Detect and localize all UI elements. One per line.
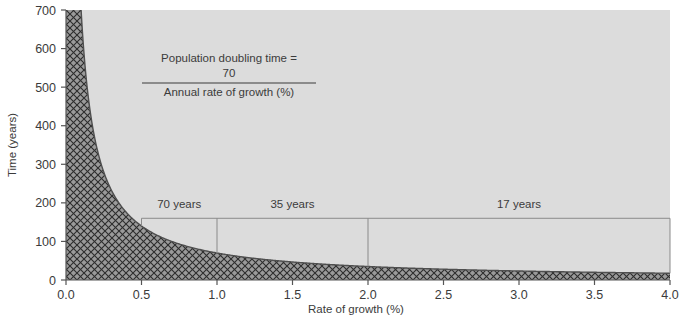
formula-denominator: Annual rate of growth (%) — [164, 86, 295, 98]
x-axis-title: Rate of growth (%) — [308, 303, 404, 315]
population-doubling-time-chart: 70 years 35 years 17 years Population do… — [0, 0, 688, 322]
x-tick-label: 4.0 — [661, 288, 678, 302]
x-tick-label: 3.0 — [510, 288, 527, 302]
y-tick-label: 200 — [35, 196, 56, 210]
annotation-label-17-years: 17 years — [497, 198, 541, 210]
x-tick-label: 1.5 — [284, 288, 301, 302]
x-tick-label: 3.5 — [586, 288, 603, 302]
y-tick-label: 700 — [35, 4, 56, 18]
formula-numerator-line2: 70 — [223, 67, 236, 79]
formula-numerator-line1: Population doubling time = — [161, 52, 297, 64]
annotation-label-35-years: 35 years — [270, 198, 314, 210]
x-tick-label: 2.0 — [359, 288, 376, 302]
y-tick-label: 400 — [35, 119, 56, 133]
y-tick-label: 0 — [49, 274, 56, 288]
x-tick-label: 1.0 — [208, 288, 225, 302]
annotation-label-70-years: 70 years — [157, 198, 201, 210]
y-tick-label: 600 — [35, 42, 56, 56]
x-tick-label: 0.0 — [57, 288, 74, 302]
x-tick-label: 2.5 — [435, 288, 452, 302]
x-tick-label: 0.5 — [133, 288, 150, 302]
y-tick-label: 100 — [35, 235, 56, 249]
y-tick-label: 500 — [35, 81, 56, 95]
y-tick-label: 300 — [35, 158, 56, 172]
y-axis-title: Time (years) — [6, 113, 18, 177]
